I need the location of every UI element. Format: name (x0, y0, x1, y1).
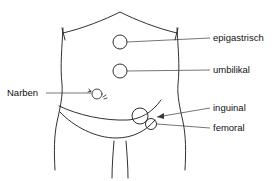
suture-tick-lower-right (103, 95, 106, 97)
groin-fold-lower (60, 112, 155, 138)
scar-circle-narben (92, 89, 102, 99)
leader-arrowhead-inguinal (157, 113, 164, 119)
label-narben: Narben (7, 88, 38, 98)
thigh-line-right (126, 141, 128, 178)
label-umbilikal: umbilikal (213, 65, 250, 75)
label-femoral: femoral (213, 123, 245, 133)
rib-arch (63, 12, 177, 33)
leader-inguinal (157, 108, 210, 117)
hernia-diagram: epigastrisch umbilikal inguinal femoral … (0, 0, 277, 181)
thigh-line-left (112, 141, 114, 178)
torso-left-side (54, 28, 63, 170)
suture-tick-right (104, 98, 107, 99)
leader-umbilikal (127, 70, 210, 71)
site-circle-epigastrisch (113, 35, 127, 49)
label-epigastrisch: epigastrisch (213, 33, 264, 43)
label-inguinal: inguinal (213, 103, 246, 113)
torso-right-side (177, 28, 186, 170)
leader-epigastrisch (127, 38, 210, 42)
site-circle-umbilikal (113, 64, 127, 78)
torso-illustration (0, 0, 277, 181)
